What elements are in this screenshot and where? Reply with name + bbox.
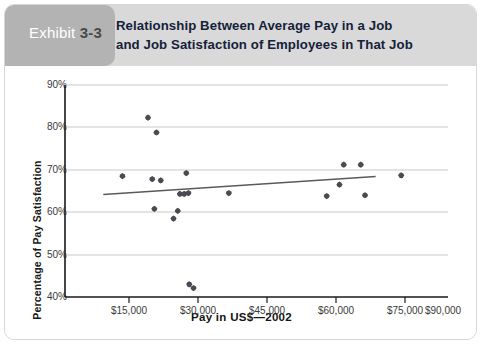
data-point (336, 182, 342, 188)
data-point (170, 215, 176, 221)
data-point (183, 170, 189, 176)
trendline-path (103, 177, 375, 195)
screenshot-root: Exhibit 3-3 Relationship Between Average… (0, 0, 483, 352)
data-point (119, 173, 125, 179)
scatter-plot-svg (5, 66, 477, 340)
title-line-1: Relationship Between Average Pay in a Jo… (116, 16, 466, 35)
title-line-2: and Job Satisfaction of Employees in Tha… (116, 35, 466, 54)
data-points (119, 115, 404, 292)
exhibit-word: Exhibit (29, 24, 75, 41)
gridlines (65, 85, 448, 255)
data-point (175, 208, 181, 214)
data-point (362, 192, 368, 198)
data-point (398, 172, 404, 178)
data-point (324, 193, 330, 199)
data-point (158, 177, 164, 183)
axis-lines (65, 85, 448, 297)
data-point (151, 206, 157, 212)
trendline (103, 177, 375, 195)
x-axis-ticks (129, 297, 405, 303)
data-point (358, 162, 364, 168)
data-point (149, 176, 155, 182)
chart-container: Percentage of Pay Satisfaction Pay in US… (5, 66, 477, 340)
exhibit-header-band: Exhibit 3-3 Relationship Between Average… (5, 5, 477, 66)
exhibit-label: Exhibit 3-3 (29, 24, 102, 41)
data-point (226, 190, 232, 196)
data-point (190, 285, 196, 291)
exhibit-number: 3-3 (80, 24, 102, 41)
exhibit-title: Relationship Between Average Pay in a Jo… (116, 16, 466, 54)
data-point (341, 162, 347, 168)
exhibit-card: Exhibit 3-3 Relationship Between Average… (4, 4, 477, 340)
data-point (153, 129, 159, 135)
data-point (145, 115, 151, 121)
